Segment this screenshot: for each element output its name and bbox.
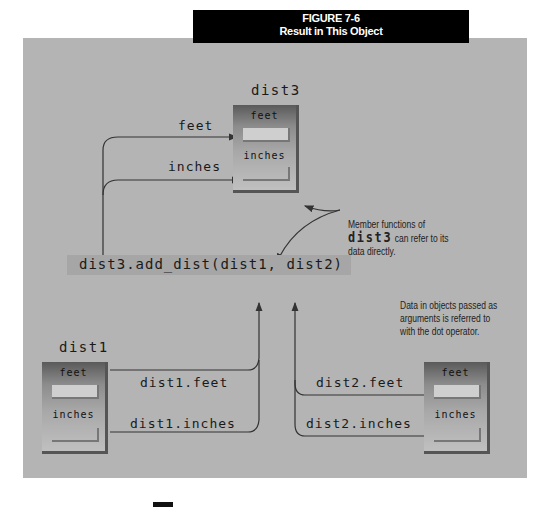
dist2-inches-field: [434, 428, 481, 442]
dist3-object-name: dist3: [251, 82, 301, 98]
dist2-feet-label-arrow: dist2.feet: [316, 375, 404, 390]
dist3-object: feet inches: [233, 105, 299, 193]
inches-label: inches: [168, 159, 221, 174]
dist1-inches-label-arrow: dist1.inches: [130, 416, 236, 431]
dist1-feet-label: feet: [42, 367, 105, 378]
args-note-line2: arguments is referred to: [400, 312, 497, 325]
dist2-feet-label: feet: [424, 367, 487, 378]
page-marker: [153, 502, 173, 507]
feet-label: feet: [178, 118, 213, 133]
dist3-inches-field: [243, 167, 290, 181]
dist1-feet-label-arrow: dist1.feet: [140, 375, 228, 390]
member-note-code: dist3: [348, 229, 392, 245]
dist2-inches-label: inches: [424, 409, 487, 420]
dist1-feet-field: [52, 385, 99, 399]
dist3-feet-label: feet: [233, 110, 296, 121]
dist1-inches-label: inches: [42, 409, 105, 420]
args-note-line1: Data in objects passed as: [400, 299, 497, 312]
dist1-object-name: dist1: [59, 339, 109, 355]
member-note-line2: can refer to its: [392, 233, 448, 244]
member-note-line3: data directly.: [348, 245, 449, 258]
dist1-object: feet inches: [42, 362, 108, 454]
arguments-note: Data in objects passed as arguments is r…: [400, 299, 497, 338]
call-expression-box: dist3.add_dist(dist1, dist2): [67, 255, 351, 275]
args-note-line3: with the dot operator.: [400, 325, 497, 338]
dist2-feet-field: [434, 385, 481, 399]
dist3-feet-field: [243, 128, 290, 142]
call-expression: dist3.add_dist(dist1, dist2): [79, 256, 343, 272]
dist2-object: feet inches: [424, 362, 490, 454]
dist3-inches-label: inches: [233, 150, 296, 161]
dist2-inches-label-arrow: dist2.inches: [306, 416, 412, 431]
member-functions-note: Member functions of dist3 can refer to i…: [348, 218, 449, 258]
dist1-inches-field: [52, 428, 99, 442]
